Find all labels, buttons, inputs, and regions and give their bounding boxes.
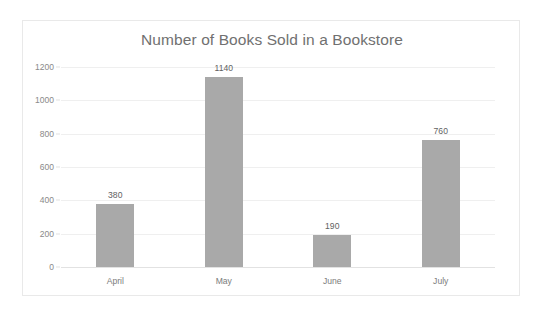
y-axis-tick-label: 200: [40, 229, 54, 239]
y-axis-tick-mark: [56, 167, 60, 168]
bar[interactable]: [422, 140, 460, 267]
y-axis-tick-label: 400: [40, 195, 54, 205]
bar[interactable]: [205, 77, 243, 267]
bar-value-label: 760: [434, 126, 448, 136]
x-axis-category-label: May: [216, 276, 232, 286]
bar-group: 760July: [387, 67, 496, 267]
y-axis-tick-mark: [56, 67, 60, 68]
x-axis-category-label: June: [323, 276, 342, 286]
y-axis-tick-mark: [56, 233, 60, 234]
chart-frame: Number of Books Sold in a Bookstore 0200…: [22, 20, 520, 296]
y-axis-tick-label: 1200: [35, 62, 54, 72]
gridline: [61, 267, 495, 268]
plot-area: 020040060080010001200 380April1140May190…: [61, 67, 495, 267]
y-axis-tick-mark: [56, 267, 60, 268]
y-axis-tick-mark: [56, 100, 60, 101]
x-axis-category-label: July: [433, 276, 448, 286]
y-axis-tick-mark: [56, 133, 60, 134]
chart-title: Number of Books Sold in a Bookstore: [23, 31, 521, 49]
y-axis-tick-label: 600: [40, 162, 54, 172]
bar[interactable]: [96, 204, 134, 267]
bar-value-label: 380: [108, 190, 122, 200]
y-axis-tick-mark: [56, 200, 60, 201]
y-axis-tick-label: 800: [40, 129, 54, 139]
x-axis-category-label: April: [107, 276, 124, 286]
bar[interactable]: [313, 235, 351, 267]
bar-value-label: 190: [325, 221, 339, 231]
bar-group: 1140May: [170, 67, 279, 267]
bar-value-label: 1140: [215, 63, 233, 73]
y-axis-tick-label: 0: [49, 262, 54, 272]
bar-group: 190June: [278, 67, 387, 267]
y-axis-tick-label: 1000: [35, 95, 54, 105]
bar-group: 380April: [61, 67, 170, 267]
